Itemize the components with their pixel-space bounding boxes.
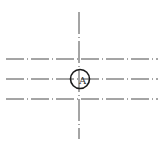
point-marker-label: A <box>78 75 87 86</box>
drawing-canvas: A <box>0 0 165 147</box>
centerline-diagram: A <box>0 0 165 147</box>
